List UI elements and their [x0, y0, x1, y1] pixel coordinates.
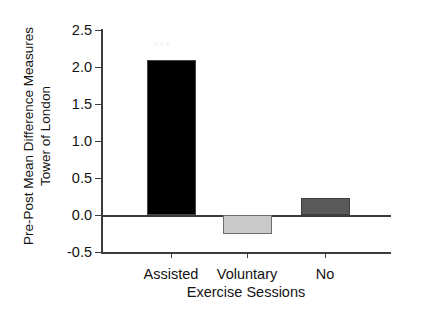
x-tick-label-no: No: [316, 266, 335, 282]
x-axis-title: Exercise Sessions: [101, 284, 391, 300]
y-tick-label: 0.5: [72, 170, 92, 186]
y-tick-label: 2.5: [72, 22, 92, 38]
bar-no[interactable]: [301, 198, 350, 215]
x-tick-mark: [171, 252, 172, 258]
y-tick-mark: [95, 104, 101, 105]
significance-annotation: ***: [153, 39, 171, 54]
x-tick-label-assisted: Assisted: [144, 266, 199, 282]
y-tick-mark: [95, 141, 101, 142]
bar-chart-figure: Pre-Post Mean Difference Measures Tower …: [0, 0, 422, 318]
x-axis-spine: [101, 252, 391, 254]
y-axis-title-line1: Pre-Post Mean Difference Measures: [20, 12, 37, 260]
bar-voluntary[interactable]: [223, 215, 272, 234]
y-tick-mark: [95, 178, 101, 179]
x-tick-mark: [247, 252, 248, 258]
y-tick-label: 0.0: [72, 207, 92, 223]
y-tick-label: -0.5: [67, 244, 92, 260]
y-tick-label: 2.0: [72, 59, 92, 75]
y-tick-mark: [95, 67, 101, 68]
y-axis-title-line2: Tower of London: [37, 12, 54, 260]
x-tick-mark: [325, 252, 326, 258]
y-tick-label: 1.5: [72, 96, 92, 112]
x-tick-label-voluntary: Voluntary: [217, 266, 277, 282]
bar-assisted[interactable]: [147, 60, 196, 215]
y-tick-mark: [95, 252, 101, 253]
plot-area: 2.5 2.0 1.5 1.0 0.5 0.0 -0.5 ***: [101, 30, 391, 252]
y-axis-title: Pre-Post Mean Difference Measures Tower …: [2, 0, 64, 270]
y-tick-label: 1.0: [72, 133, 92, 149]
y-tick-mark: [95, 30, 101, 31]
y-axis-spine: [101, 29, 103, 253]
